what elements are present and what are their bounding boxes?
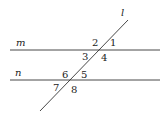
- angle-3: 3: [82, 51, 88, 62]
- angle-1: 1: [110, 37, 116, 48]
- angle-7: 7: [53, 82, 59, 93]
- label-m: m: [16, 37, 25, 48]
- angle-4: 4: [101, 52, 107, 63]
- diagram: l m n 1 2 3 4 5 6 7 8: [0, 0, 166, 117]
- transversal-l: [40, 20, 128, 111]
- angle-6: 6: [62, 69, 68, 80]
- label-n: n: [15, 67, 21, 78]
- angle-2: 2: [92, 37, 98, 48]
- angle-8: 8: [71, 84, 77, 95]
- label-l: l: [121, 7, 124, 18]
- angle-5: 5: [81, 69, 87, 80]
